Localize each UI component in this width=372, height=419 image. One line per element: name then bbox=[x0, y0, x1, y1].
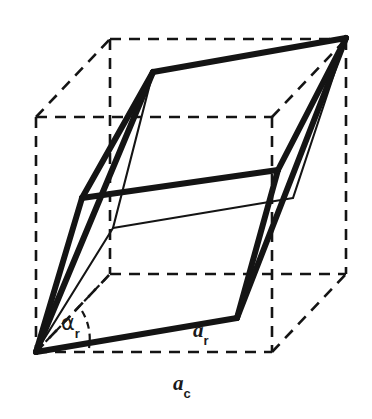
cube-edge-depth-bottom-right bbox=[272, 274, 346, 352]
label-a-r: ar bbox=[193, 320, 209, 343]
a-r-subscript: r bbox=[204, 333, 209, 348]
rhombo-edge-top-front bbox=[153, 38, 346, 72]
a-r-base: a bbox=[193, 318, 204, 342]
alpha-subscript: r bbox=[75, 326, 80, 341]
alpha-symbol: α bbox=[61, 311, 75, 335]
label-alpha-r: αr bbox=[61, 313, 80, 336]
rhombo-edge-bottom-right-to-apex bbox=[237, 38, 346, 318]
a-c-subscript: c bbox=[184, 386, 191, 401]
figure-canvas: αr ar ac bbox=[0, 0, 372, 419]
cube-edge-depth-top-left bbox=[36, 39, 110, 117]
rhombohedron-visible-edges bbox=[36, 38, 346, 352]
rhombo-edge-origin-to-top-vertex bbox=[36, 72, 153, 352]
unit-cell-diagram bbox=[0, 0, 372, 419]
a-c-base: a bbox=[173, 371, 184, 395]
label-a-c: ac bbox=[173, 373, 191, 396]
